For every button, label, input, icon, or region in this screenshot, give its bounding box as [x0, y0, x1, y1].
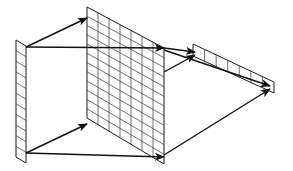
projection-arrow-icon — [26, 153, 164, 157]
projection-arrow-icon — [164, 89, 270, 155]
output-strip — [193, 44, 274, 93]
output-strip-outline — [193, 44, 274, 93]
middle-grid-outline — [87, 7, 164, 164]
input-strip — [16, 40, 26, 163]
neural-projection-diagram — [0, 0, 293, 171]
middle-grid — [87, 7, 164, 164]
projection-arrow-icon — [164, 55, 195, 72]
layers-group — [16, 7, 274, 164]
projection-arrow-icon — [26, 47, 164, 48]
input-strip-outline — [16, 40, 26, 163]
projection-arrow-icon — [26, 18, 87, 47]
projection-arrow-icon — [26, 124, 87, 153]
